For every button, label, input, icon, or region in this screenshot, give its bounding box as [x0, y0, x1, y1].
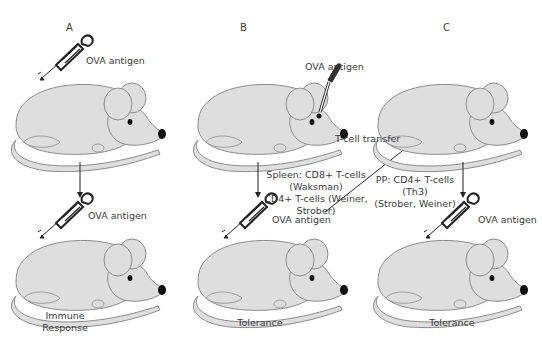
antigen-label-a-bottom: OVA antigen — [88, 210, 147, 222]
mouse-a-top — [11, 83, 166, 172]
panel-letter-a: A — [66, 22, 73, 33]
syringe-a-bottom — [38, 193, 93, 238]
panel-letter-b: B — [240, 22, 247, 33]
mouse-c-top — [373, 83, 528, 172]
outcome-label-b: Tolerance — [230, 317, 290, 329]
mechanism-label-b: Spleen: CD8+ T-cells (Waksman) CD4+ T-ce… — [260, 169, 372, 217]
outcome-label-c: Tolerance — [422, 317, 482, 329]
outcome-label-a: Immune Response — [40, 310, 90, 334]
antigen-label-c-bottom: OVA antigen — [478, 214, 537, 226]
mouse-c-bottom — [373, 239, 528, 328]
transfer-label: T-cell transfer — [335, 133, 400, 145]
antigen-label-b-bottom: OVA antigen — [272, 214, 331, 226]
antigen-label-b-top: OVA antigen — [305, 61, 364, 73]
syringe-a-top — [38, 35, 93, 80]
mouse-b-bottom — [193, 239, 348, 328]
mechanism-label-c: PP: CD4+ T-cells (Th3) (Strober, Weiner) — [373, 174, 457, 210]
antigen-label-a-top: OVA antigen — [86, 55, 145, 67]
panel-letter-c: C — [443, 22, 450, 33]
